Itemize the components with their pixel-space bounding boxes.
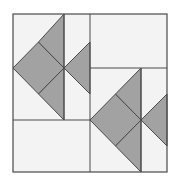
quilt-diagram bbox=[0, 0, 180, 183]
quilt-canvas bbox=[0, 0, 180, 183]
